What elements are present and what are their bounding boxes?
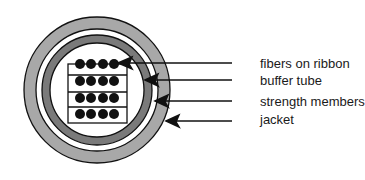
cable-cross-section-diagram — [0, 0, 365, 180]
label-fibers-on-ribbon: fibers on ribbon — [260, 56, 350, 71]
ribbon-stack — [68, 59, 127, 123]
label-buffer-tube: buffer tube — [260, 73, 322, 88]
arrow-head-jacket-icon — [166, 115, 179, 127]
label-jacket: jacket — [260, 112, 294, 127]
label-strength-members: strength members — [260, 94, 365, 109]
